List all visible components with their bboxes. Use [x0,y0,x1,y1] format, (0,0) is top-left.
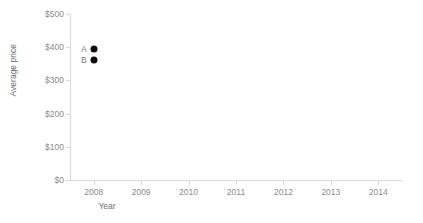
data-point-marker [90,57,97,64]
y-tick-mark [66,14,70,15]
y-tick-mark [66,47,70,48]
x-axis-title: Year [98,202,115,211]
y-tick-mark [66,147,70,148]
x-tick-label: 2012 [274,188,293,197]
y-tick-mark [66,114,70,115]
x-tick-label: 2011 [227,188,245,197]
x-tick-label: 2009 [132,188,151,197]
y-tick-mark [66,180,70,181]
x-tick-label: 2014 [369,188,388,197]
data-point-marker [90,45,97,52]
x-tick-label: 2013 [321,188,340,197]
x-tick-mark [236,181,237,185]
data-point-label: A [81,45,87,54]
x-tick-mark [141,181,142,185]
y-axis-title: Average price [9,30,18,110]
x-tick-label: 2010 [179,188,198,197]
y-axis-line [70,14,71,181]
data-point-label: B [81,56,87,65]
y-tick-mark [66,80,70,81]
x-tick-mark [189,181,190,185]
x-tick-mark [378,181,379,185]
y-tick-label: $100 [2,143,64,152]
scatter-chart: $0$100$200$300$400$500 20082009201020112… [0,0,423,223]
y-tick-label: $200 [2,110,64,119]
x-tick-mark [94,181,95,185]
x-tick-mark [283,181,284,185]
x-tick-mark [331,181,332,185]
x-tick-label: 2008 [84,188,103,197]
y-tick-label: $500 [2,10,64,19]
y-tick-label: $0 [2,176,64,185]
